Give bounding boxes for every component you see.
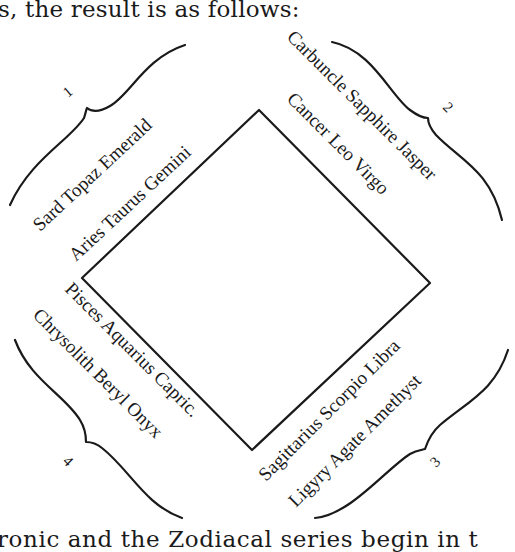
brace-group-2 (332, 42, 502, 220)
group-4-number: 4 (60, 453, 77, 470)
group-1-number: 1 (60, 83, 76, 100)
group-1-stones: Sard Topaz Emerald (28, 114, 156, 235)
group-3-number: 3 (427, 454, 444, 471)
group-1-signs: Aries Taurus Gemini (64, 141, 194, 265)
continuation-text-line: ronic and the Zodiacal series begin in t (0, 526, 478, 552)
group-2-number: 2 (440, 99, 457, 116)
